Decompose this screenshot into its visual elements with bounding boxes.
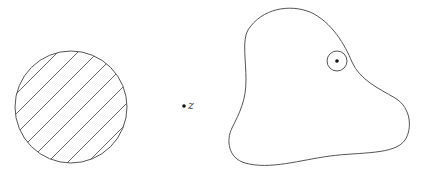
hatch-lines [0,10,190,170]
region [229,8,409,165]
diagram-canvas: z [0,0,423,173]
point-z-label: z [187,99,194,112]
disk-boundary [15,51,127,163]
region-boundary [229,8,409,165]
point-z-dot [182,104,186,108]
point-z: z [182,99,194,112]
small-circle-center-dot [335,59,339,63]
hatched-disk [0,10,190,170]
